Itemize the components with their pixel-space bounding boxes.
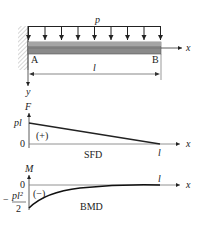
load-label: p — [94, 14, 100, 25]
bending-moment-diagram: M x 0 l (−) − pl² 2 BMD — [3, 163, 191, 214]
bmd-end-label: l — [158, 173, 161, 184]
sfd-end-label: l — [158, 147, 161, 158]
bmd-zero-label: 0 — [20, 179, 25, 190]
bmd-pl2-numerator: pl² — [11, 190, 24, 201]
end-b-label: B — [152, 54, 159, 65]
bmd-m-axis-label: M — [24, 163, 34, 174]
sfd-x-axis-label: x — [185, 138, 191, 149]
fixed-support-hatch — [18, 26, 28, 70]
sfd-title: SFD — [84, 149, 102, 160]
beam-diagram: p x A B l y — [18, 14, 191, 97]
length-label: l — [93, 62, 96, 73]
shear-force-diagram: F x pl 0 (+) l SFD — [13, 101, 191, 160]
sfd-shear-line — [29, 123, 160, 144]
bmd-neg-sign: − — [3, 194, 9, 205]
load-arrows — [29, 27, 161, 40]
bmd-pl2-denominator: 2 — [16, 203, 21, 214]
bmd-title: BMD — [80, 201, 103, 212]
y-axis-label: y — [25, 86, 31, 97]
sfd-f-axis-label: F — [24, 101, 32, 112]
diagram-canvas: p x A B l y F x pl 0 (+) l SFD — [0, 0, 200, 231]
beam-top-stripe — [28, 42, 161, 46]
end-a-label: A — [31, 54, 39, 65]
bmd-x-axis-label: x — [185, 179, 191, 190]
x-axis-label: x — [185, 42, 191, 53]
sfd-zero-label: 0 — [20, 138, 25, 149]
sfd-sign-label: (+) — [36, 130, 48, 142]
sfd-pl-label: pl — [13, 117, 22, 128]
bmd-sign-label: (−) — [33, 188, 45, 200]
